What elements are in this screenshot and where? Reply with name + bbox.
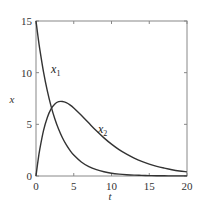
y-tick-label: 0: [27, 170, 33, 182]
x-tick-label: 15: [144, 180, 156, 192]
series-label-x2: x2: [97, 122, 107, 138]
x-tick-labels: 05101520: [33, 180, 193, 192]
line-chart: 05101520 051015 x1 x2 t x: [0, 0, 201, 208]
y-axis-label: x: [9, 93, 15, 105]
y-tick-label: 5: [27, 118, 33, 130]
y-tick-labels: 051015: [21, 15, 33, 182]
y-tick-label: 15: [21, 15, 33, 27]
curve-x1: [36, 21, 187, 176]
x-tick-label: 5: [71, 180, 77, 192]
y-tick-label: 10: [21, 67, 33, 79]
series-label-x1: x1: [50, 62, 60, 78]
curve-x2: [36, 101, 187, 176]
x-tick-label: 0: [33, 180, 39, 192]
plot-frame: [36, 21, 187, 176]
x-tick-label: 20: [182, 180, 194, 192]
axis-ticks: [36, 21, 187, 176]
